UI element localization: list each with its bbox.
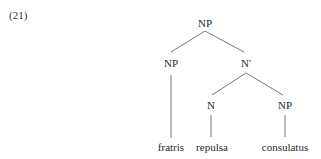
syntax-tree: NP NP N' N NP fratris repulsa consulatus <box>0 0 321 159</box>
edge-nbar-to-np <box>246 73 283 95</box>
node-n: N <box>207 99 215 111</box>
leaf-repulsa: repulsa <box>196 141 228 153</box>
node-left-np: NP <box>164 57 178 69</box>
edge-root-to-nbar <box>205 31 244 52</box>
edge-nbar-to-n <box>212 73 246 95</box>
leaf-fratris: fratris <box>158 141 184 153</box>
leaf-consulatus: consulatus <box>262 141 308 153</box>
node-root-np: NP <box>198 17 212 29</box>
node-right-np: NP <box>278 99 292 111</box>
edge-root-to-np <box>171 31 205 52</box>
node-n-bar: N' <box>241 57 251 69</box>
